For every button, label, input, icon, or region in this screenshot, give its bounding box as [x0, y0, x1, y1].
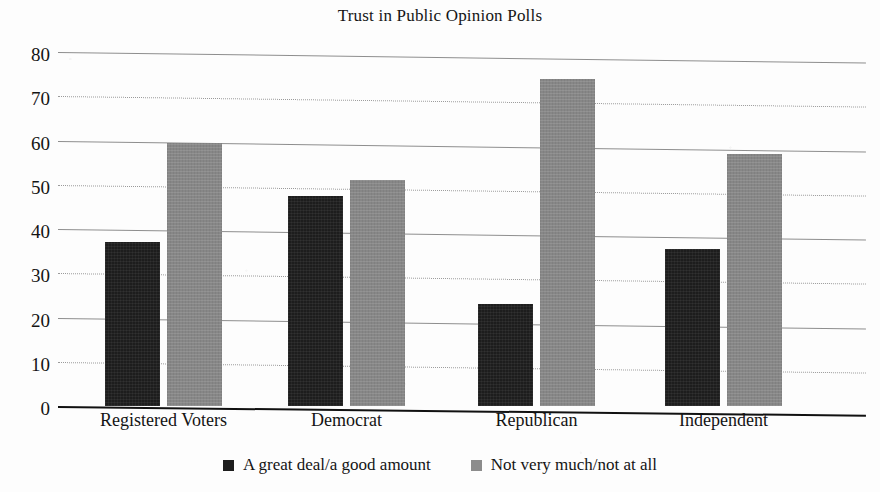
bar [540, 79, 595, 406]
gray-square-icon [471, 460, 482, 471]
gridline [58, 52, 866, 64]
dark-square-icon [223, 460, 234, 471]
y-axis-tick-label: 40 [4, 222, 50, 241]
bar [478, 304, 533, 406]
y-axis-tick-label: 80 [4, 45, 50, 64]
legend-item-label: Not very much/not at all [491, 455, 657, 475]
legend-item: A great deal/a good amount [223, 455, 431, 475]
bar [665, 249, 720, 406]
y-axis: 01020304050607080 [0, 52, 50, 406]
chart-legend: A great deal/a good amountNot very much/… [0, 455, 880, 475]
x-axis: Registered VotersDemocratRepublicanIndep… [58, 410, 866, 438]
legend-item-label: A great deal/a good amount [243, 455, 431, 475]
x-axis-tick-label: Independent [614, 410, 834, 431]
x-axis-tick-label: Democrat [237, 410, 457, 431]
chart-title: Trust in Public Opinion Polls [0, 6, 880, 26]
bar [350, 180, 405, 406]
bar [727, 154, 782, 406]
y-axis-tick-label: 0 [4, 399, 50, 418]
y-axis-tick-label: 50 [4, 177, 50, 196]
y-axis-tick-label: 60 [4, 133, 50, 152]
bar [105, 242, 160, 406]
y-axis-tick-label: 70 [4, 89, 50, 108]
y-axis-tick-label: 20 [4, 310, 50, 329]
bar [167, 143, 222, 406]
legend-item: Not very much/not at all [471, 455, 657, 475]
gridline [58, 96, 866, 108]
y-axis-tick-label: 30 [4, 266, 50, 285]
y-axis-tick-label: 10 [4, 354, 50, 373]
plot-area [58, 52, 866, 406]
bar [288, 196, 343, 406]
